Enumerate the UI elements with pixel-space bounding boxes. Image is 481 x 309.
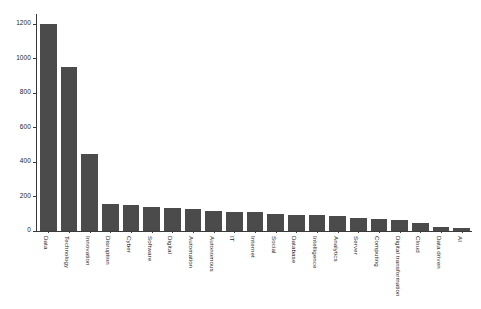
bar-rect [309,215,326,231]
x-tick-label: IT [230,236,237,242]
x-tick-mark [296,231,297,233]
bar[interactable] [40,14,57,231]
bar[interactable] [371,14,388,231]
bar-rect [102,204,119,231]
x-tick-mark [420,231,421,233]
x-tick-label: Autonomous [209,236,216,272]
bar-rect [123,205,140,231]
y-tick-label: 200 [20,192,31,199]
bar-rect [350,218,367,231]
bar[interactable] [164,14,181,231]
bar-rect [288,215,305,231]
x-tick-label: Cloud [416,236,423,253]
bar-rect [267,214,284,231]
x-axis-spine [36,231,472,232]
x-tick-label: Data [44,236,51,249]
x-tick-label: Digital transformation [395,236,402,297]
x-tick-mark [110,231,111,233]
bar[interactable] [205,14,222,231]
x-tick-label: Internet [250,236,257,258]
x-tick-mark [462,231,463,233]
bar[interactable] [453,14,470,231]
bar-rect [61,67,78,231]
bar[interactable] [267,14,284,231]
x-tick-mark [131,231,132,233]
bar-rect [205,211,222,231]
x-tick-mark [338,231,339,233]
y-tick-mark [33,93,36,94]
bar-rect [412,223,429,231]
bar[interactable] [329,14,346,231]
x-tick-mark [214,231,215,233]
x-tick-label: Automation [188,236,195,268]
bar[interactable] [81,14,98,231]
bar-rect [391,220,408,231]
bar-rect [40,24,57,231]
bar-rect [143,207,160,231]
bar-rect [247,212,264,231]
plot-area [38,14,472,231]
x-tick-mark [317,231,318,233]
y-tick-mark [33,231,36,232]
x-tick-label: Social [271,236,278,253]
y-tick-mark [33,58,36,59]
x-tick-label: AI [457,236,464,242]
x-tick-mark [276,231,277,233]
x-tick-label: Computing [374,236,381,267]
y-tick-mark [33,162,36,163]
y-tick-label: 0 [27,226,31,233]
bar[interactable] [433,14,450,231]
x-tick-label: Software [147,236,154,261]
x-tick-label: Database [292,236,299,263]
y-tick-label: 800 [20,88,31,95]
bar-chart-figure: 020040060080010001200 DataTechnologyInno… [0,0,481,309]
x-tick-mark [193,231,194,233]
bar-rect [81,154,98,232]
x-tick-label: Innovation [85,236,92,266]
x-tick-label: Analytics [333,236,340,262]
bar[interactable] [412,14,429,231]
x-tick-mark [152,231,153,233]
bar-rect [329,216,346,231]
bar[interactable] [61,14,78,231]
x-tick-mark [441,231,442,233]
bar-rect [185,209,202,231]
x-tick-mark [90,231,91,233]
x-tick-label: Intelligence [312,236,319,269]
x-tick-mark [358,231,359,233]
x-tick-label: Cyber [126,236,133,253]
x-tick-label: Server [354,236,361,255]
x-tick-label: Disruption [106,236,113,265]
bar[interactable] [247,14,264,231]
x-tick-mark [48,231,49,233]
bar[interactable] [391,14,408,231]
y-tick-label: 600 [20,123,31,130]
bar[interactable] [102,14,119,231]
x-tick-label: Technology [64,236,71,268]
bar[interactable] [350,14,367,231]
x-tick-mark [400,231,401,233]
bar-rect [226,212,243,231]
x-tick-mark [234,231,235,233]
x-tick-label: Digital [168,236,175,254]
x-tick-mark [172,231,173,233]
y-tick-label: 1200 [16,19,31,26]
bar[interactable] [123,14,140,231]
bar[interactable] [309,14,326,231]
bar-rect [164,208,181,231]
y-tick-mark [33,24,36,25]
y-axis-spine [36,14,37,231]
bar[interactable] [288,14,305,231]
bar-rect [371,219,388,231]
bar[interactable] [185,14,202,231]
bar[interactable] [226,14,243,231]
x-tick-mark [69,231,70,233]
x-tick-label: Data driven [436,236,443,269]
y-tick-label: 1000 [16,54,31,61]
x-tick-mark [255,231,256,233]
y-tick-mark [33,196,36,197]
x-tick-mark [379,231,380,233]
y-tick-label: 400 [20,157,31,164]
bar[interactable] [143,14,160,231]
y-tick-mark [33,127,36,128]
